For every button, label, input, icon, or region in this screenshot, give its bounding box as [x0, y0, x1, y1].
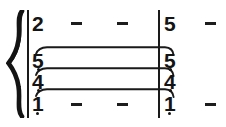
note-digit-top-m2: 5	[164, 13, 176, 34]
duration-dash-bottom-m1-b	[117, 103, 128, 106]
system-start-barline	[27, 10, 29, 118]
tie-upper	[34, 40, 174, 56]
note-digit-top-m1: 2	[32, 13, 44, 34]
duration-dash-bottom-m2-a	[205, 103, 216, 106]
note-digit-bottom-m1: 1	[32, 93, 44, 114]
note-digit-bottom-m2: 1	[164, 93, 176, 114]
jianpu-notation-canvas: 2 5 4 1 5 5 4 1	[0, 0, 226, 127]
duration-dash-top-m2-a	[205, 22, 216, 25]
octave-dot-bottom-m1	[36, 112, 39, 115]
tie-lower	[34, 82, 174, 98]
tie-middle	[34, 61, 174, 77]
octave-dot-bottom-m2	[168, 112, 171, 115]
duration-dash-top-m1-a	[71, 22, 82, 25]
system-brace-icon	[6, 10, 28, 118]
duration-dash-top-m1-b	[117, 22, 128, 25]
duration-dash-bottom-m1-a	[71, 103, 82, 106]
